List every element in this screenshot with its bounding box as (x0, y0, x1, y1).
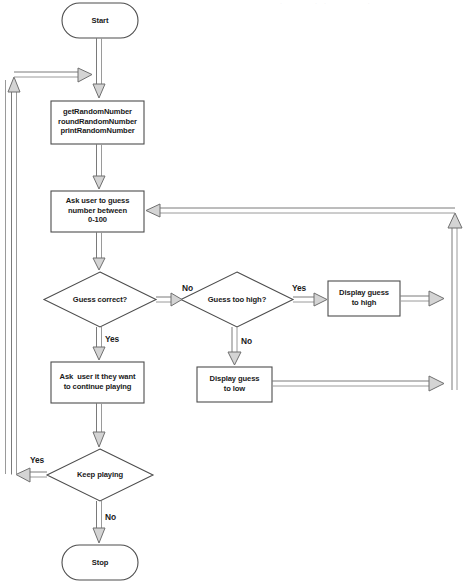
node-stop[interactable] (62, 545, 138, 580)
edge-too-high-yes (293, 293, 327, 306)
node-ask-continue[interactable] (51, 362, 144, 403)
edge-display-high-to-bus (400, 291, 444, 306)
edge-label-no-guess-too-high: No (241, 336, 252, 346)
edge-guess-correct-yes (93, 327, 105, 360)
edge-ask-guess-to-decision (93, 232, 105, 270)
node-display-too-high[interactable] (328, 281, 400, 316)
edge-random-to-ask-guess (93, 144, 105, 189)
flowchart-svg: .nodeshape { fill:#ffffff; stroke:#4d4d4… (0, 0, 466, 586)
edge-label-yes-keep-playing: Yes (30, 455, 44, 465)
edge-too-high-no (228, 327, 241, 365)
edge-label-yes-guess-correct: Yes (105, 334, 119, 344)
node-random-number[interactable] (51, 101, 144, 144)
edge-start-to-random (93, 38, 105, 98)
edge-ask-continue-to-keep (93, 403, 105, 447)
edge-label-yes-guess-too-high: Yes (292, 283, 306, 293)
edge-label-no-guess-correct: No (182, 283, 193, 293)
edge-display-low-to-bus (272, 376, 444, 391)
node-start[interactable] (62, 3, 138, 38)
node-guess-too-high[interactable] (181, 272, 293, 327)
node-keep-playing[interactable] (47, 449, 153, 501)
flowchart-canvas: · ·· · .nodeshape { fill:#ffffff; stroke… (0, 0, 466, 586)
edge-keep-playing-no (93, 501, 105, 543)
edge-guess-correct-no (156, 293, 182, 306)
edge-label-no-keep-playing: No (105, 512, 116, 522)
node-guess-correct[interactable] (44, 272, 156, 327)
node-ask-guess[interactable] (51, 191, 144, 232)
node-display-too-low[interactable] (197, 367, 272, 402)
